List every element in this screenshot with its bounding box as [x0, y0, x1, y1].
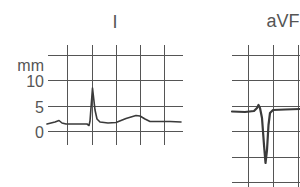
lead-i-grid	[48, 45, 183, 145]
y-tick-10: 10	[26, 73, 44, 90]
lead-avf-trace	[232, 105, 300, 163]
lead-i-title: I	[112, 12, 117, 32]
ecg-figure: I mm 10 5 0 aVF	[0, 0, 300, 187]
lead-i-y-axis-labels: mm 10 5 0	[17, 57, 44, 141]
lead-avf-grid	[232, 45, 300, 187]
y-tick-5: 5	[35, 99, 44, 116]
lead-avf-title: aVF	[266, 11, 299, 31]
lead-avf-panel: aVF	[232, 11, 300, 187]
y-axis-unit-label: mm	[17, 57, 44, 74]
lead-i-panel: I mm 10 5 0	[17, 12, 183, 145]
y-tick-0: 0	[35, 124, 44, 141]
